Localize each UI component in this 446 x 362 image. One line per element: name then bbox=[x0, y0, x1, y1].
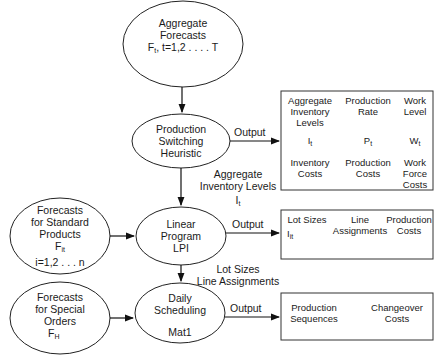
lot-sizes-edge-label: Lot Sizes Line Assignments bbox=[190, 263, 286, 287]
output-label-1: Output bbox=[234, 126, 266, 138]
box1-col2-footer: ProductionCosts bbox=[343, 157, 393, 179]
box1-col1-footer: InventoryCosts bbox=[283, 157, 337, 179]
box3-col2: ChangeoverCosts bbox=[362, 302, 432, 324]
output-label-2: Output bbox=[232, 218, 264, 230]
special-orders-label: Forecasts for Special Orders FH bbox=[10, 291, 110, 343]
box2-col3: ProductionCosts bbox=[384, 214, 434, 236]
box2-col2: LineAssignments bbox=[330, 214, 390, 236]
box3-col1: ProductionSequences bbox=[284, 302, 344, 324]
box2-col1: Lot Sizes Iit bbox=[283, 214, 331, 242]
box1-col3-header: WorkLevel bbox=[397, 95, 433, 117]
box1-col3-footer: WorkForceCosts bbox=[397, 157, 433, 190]
output-label-3: Output bbox=[230, 302, 262, 314]
aggregate-inventory-edge-label: Aggregate Inventory Levels It bbox=[190, 168, 286, 210]
box1-col1-var: It bbox=[283, 135, 337, 149]
box1-col2-var: Pt bbox=[343, 135, 393, 149]
linear-program-label: Linear Program LPI bbox=[136, 218, 226, 254]
box1-col3-var: Wt bbox=[397, 135, 433, 149]
aggregate-forecasts-label: Aggregate Forecasts Ft, t=1,2 . . . . T bbox=[123, 17, 243, 57]
standard-products-label: Forecasts for Standard Products Fit i=1,… bbox=[10, 204, 110, 268]
box1-col2-header: ProductionRate bbox=[343, 95, 393, 117]
box1-col1-header: AggregateInventoryLevels bbox=[283, 95, 337, 128]
daily-scheduling-label: Daily Scheduling Mat1 bbox=[135, 292, 225, 338]
production-switching-label: Production Switching Heuristic bbox=[132, 123, 230, 159]
